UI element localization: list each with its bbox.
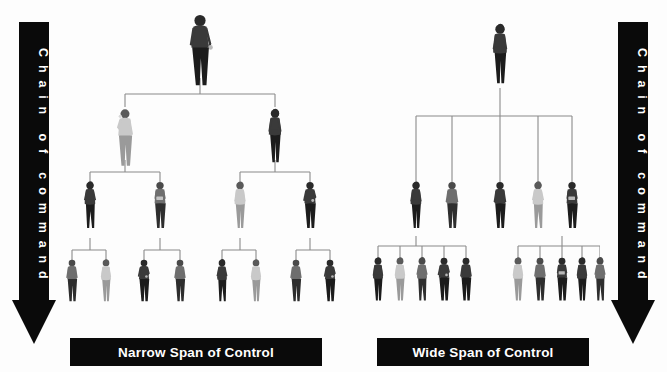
person-figure-wide-L2-9 (590, 256, 609, 302)
person-figure-narrow-L2-2 (230, 180, 251, 230)
person-figure-narrow-L3-6 (287, 258, 306, 303)
person-figure-narrow-L2-1 (150, 180, 171, 230)
wide-span-org-chart (360, 0, 600, 338)
person-figure-narrow-L3-7 (321, 258, 340, 303)
person-figure-narrow-L2-3 (300, 180, 321, 230)
chain-of-command-label-left: C h a i n o f c o m m a n d (19, 28, 49, 300)
person-figure-wide-L2-3 (434, 256, 453, 302)
wide-span-caption-text: Wide Span of Control (412, 345, 553, 360)
chain-of-command-label-right: C h a i n o f c o m m a n d (618, 28, 648, 300)
person-figure-narrow-L3-1 (97, 258, 116, 303)
person-figure-narrow-L3-2 (135, 258, 154, 303)
person-figure-narrow-L3-0 (63, 258, 82, 303)
person-figure-wide-L2-1 (390, 256, 409, 302)
span-of-control-diagram: C h a i n o f c o m m a n d C h a i n o … (0, 0, 667, 372)
person-figure-narrow-L3-3 (171, 258, 190, 303)
person-figure-wide-L1-2 (490, 180, 511, 230)
person-figure-narrow-L3-5 (247, 258, 266, 303)
person-figure-narrow-L2-0 (80, 180, 101, 230)
person-figure-wide-L1-1 (442, 180, 463, 230)
person-figure-wide-L2-2 (412, 256, 431, 302)
person-figure-wide-L2-5 (508, 256, 527, 302)
person-figure-wide-L2-7 (552, 256, 571, 302)
person-figure-narrow-L3-4 (213, 258, 232, 303)
chain-of-command-arrow-left: C h a i n o f c o m m a n d (12, 22, 56, 344)
narrow-span-caption-bar: Narrow Span of Control (70, 338, 322, 366)
person-figure-wide-L1-3 (528, 180, 549, 230)
person-figure-wide-L2-6 (530, 256, 549, 302)
person-figure-wide-L2-0 (368, 256, 387, 302)
person-figure-wide-L2-8 (572, 256, 591, 302)
person-figure-narrow-L0-0 (184, 12, 216, 88)
person-figure-wide-L0-0 (487, 22, 514, 85)
person-figure-narrow-L1-1 (263, 107, 287, 164)
person-figure-wide-L1-4 (562, 180, 583, 230)
person-figure-wide-L1-0 (406, 180, 427, 230)
narrow-span-org-chart (58, 0, 358, 338)
chain-of-command-arrow-right: C h a i n o f c o m m a n d (611, 22, 655, 344)
arrow-head-icon (12, 300, 56, 344)
arrow-head-icon (611, 300, 655, 344)
wide-span-caption-bar: Wide Span of Control (377, 338, 589, 366)
person-figure-wide-L2-4 (456, 256, 475, 302)
narrow-span-caption-text: Narrow Span of Control (118, 345, 274, 360)
person-figure-narrow-L1-0 (112, 107, 137, 168)
